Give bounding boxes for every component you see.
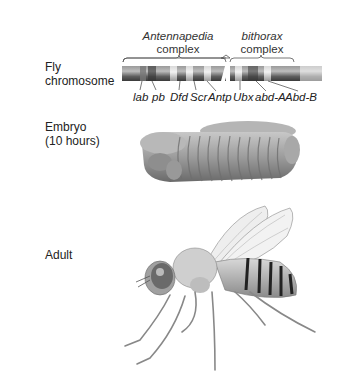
gene-leader-lines: [140, 81, 298, 91]
gene-label-scr: Scr: [190, 91, 207, 103]
antennapedia-bracket: [123, 55, 230, 62]
diagram-graphics: [0, 0, 338, 392]
gene-label-abd-a: abd-A: [255, 91, 286, 103]
gene-label-ubx: Ubx: [233, 91, 253, 103]
gene-label-dfd: Dfd: [170, 91, 188, 103]
chromosome-bar: [122, 66, 322, 81]
gene-label-lab: lab: [133, 91, 148, 103]
embryo-illustration: [140, 121, 300, 182]
adult-fly-illustration: [125, 206, 315, 370]
gene-label-pb: pb: [152, 91, 165, 103]
bithorax-bracket: [230, 55, 294, 62]
gene-label-abd-b: Abd-B: [285, 91, 317, 103]
gene-label-antp: Antp: [208, 91, 232, 103]
